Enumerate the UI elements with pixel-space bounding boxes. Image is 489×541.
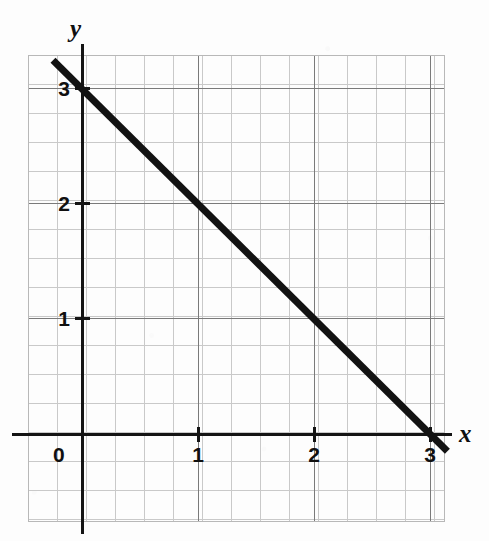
x-tick-1 (197, 427, 200, 442)
y-tick-label-1: 1 (58, 308, 70, 329)
y-axis-label: y (70, 16, 81, 41)
grid-border (28, 55, 445, 522)
y-tick-1 (75, 317, 90, 320)
y-axis-line (81, 44, 84, 534)
x-axis-label: x (459, 421, 472, 446)
y-tick-label-3: 3 (58, 78, 70, 99)
x-tick-3 (429, 427, 432, 442)
x-tick-label-2: 2 (308, 444, 320, 465)
y-tick-label-2: 2 (58, 193, 70, 214)
x-tick-label-1: 1 (192, 444, 204, 465)
coordinate-plane-figure: 0 1 2 3 1 2 3 x y (0, 0, 489, 541)
x-tick-label-3: 3 (424, 444, 436, 465)
y-tick-2 (75, 202, 90, 205)
x-axis-line (12, 433, 452, 436)
y-tick-3 (75, 87, 90, 90)
plot-area (28, 55, 445, 522)
x-tick-2 (313, 427, 316, 442)
origin-label: 0 (53, 444, 65, 465)
